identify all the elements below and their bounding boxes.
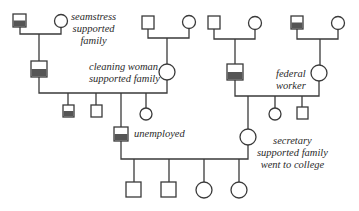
label-line: family: [71, 35, 116, 47]
label-line: seamstress: [71, 11, 116, 23]
gen1-female-4: [332, 17, 345, 30]
gen1-couple1: [13, 14, 68, 61]
gen1-couple3: [208, 16, 262, 64]
label-line: federal: [276, 68, 306, 80]
gen1-male-2: [142, 16, 154, 29]
gen1-female-2: [183, 16, 196, 29]
gen1-male-3: [208, 16, 220, 29]
gen2-female-federal-worker: [311, 65, 327, 81]
label-line: supported family: [89, 73, 157, 85]
label-line: unemployed: [134, 128, 185, 140]
label-secretary: secretary supported family went to colle…: [257, 135, 328, 171]
label-seamstress: seamstress supported family: [71, 11, 116, 47]
label-federal-worker: federal worker: [276, 68, 306, 92]
label-unemployed: unemployed: [134, 128, 185, 140]
gen4-female-1: [196, 182, 212, 198]
label-line: secretary: [257, 135, 328, 147]
label-line: cleaning woman: [89, 61, 157, 73]
gen1-couple2: [142, 16, 196, 65]
gen3-female-secretary: [240, 129, 256, 145]
gen3-male-3: [297, 107, 308, 119]
gen3-female-2: [269, 108, 281, 120]
gen3-male-2: [91, 105, 102, 117]
pedigree-diagram: [0, 0, 359, 211]
gen3-female-1: [140, 108, 152, 120]
label-cleaning-woman: cleaning woman supported family: [89, 61, 157, 85]
label-line: went to college: [257, 159, 328, 171]
gen1-female-3: [249, 17, 262, 30]
gen1-couple4: [291, 16, 345, 65]
label-line: worker: [276, 80, 306, 92]
label-line: supported: [71, 23, 116, 35]
gen4-male-2: [161, 182, 176, 197]
gen4-female-2: [231, 182, 247, 198]
gen1-female-seamstress: [55, 15, 68, 28]
gen4-male-1: [126, 182, 141, 197]
gen2-female-cleaning-woman: [159, 64, 175, 80]
label-line: supported family: [257, 147, 328, 159]
